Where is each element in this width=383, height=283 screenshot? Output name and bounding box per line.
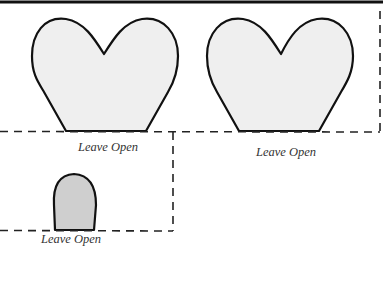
tab-shape [54, 174, 96, 230]
heart-left [32, 19, 178, 131]
label-leave-open-1: Leave Open [78, 140, 138, 155]
heart-right [207, 19, 353, 131]
label-leave-open-2: Leave Open [256, 145, 316, 160]
label-leave-open-3: Leave Open [41, 232, 101, 247]
